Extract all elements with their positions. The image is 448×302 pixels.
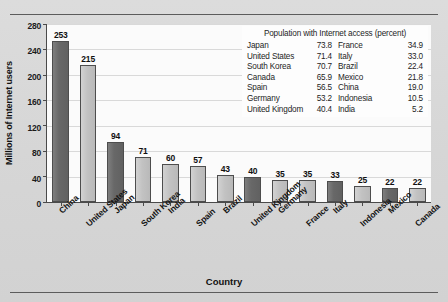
bar-slot: 253 <box>52 24 68 202</box>
y-axis-tick-label: 240 <box>27 46 41 56</box>
inset-table-row: United Kingdom40.4 <box>247 105 332 116</box>
y-axis-tick-label: 80 <box>32 148 41 158</box>
bar-value-label: 253 <box>54 30 68 40</box>
inset-table-percent: 56.5 <box>317 83 332 94</box>
inset-table-country: Indonesia <box>338 94 372 105</box>
inset-table-percent: 10.5 <box>408 94 423 105</box>
inset-table-row: France34.9 <box>338 41 423 52</box>
bar[interactable] <box>190 166 206 202</box>
x-axis-tick-mark <box>362 202 363 206</box>
inset-table-country: United States <box>247 52 294 63</box>
x-axis-tick-mark <box>143 202 144 206</box>
y-axis-tick-label: 40 <box>32 174 41 184</box>
inset-table-percent: 70.7 <box>317 62 332 73</box>
inset-table-row: Brazil22.4 <box>338 62 423 73</box>
bar-value-label: 25 <box>358 175 367 185</box>
bar-value-label: 215 <box>81 54 95 64</box>
inset-table-grid: Japan73.8United States71.4South Korea70.… <box>247 41 423 115</box>
inset-table-country: Germany <box>247 94 280 105</box>
bar-value-label: 22 <box>385 177 394 187</box>
inset-table-percent: 40.4 <box>317 105 332 116</box>
inset-table-country: Canada <box>247 73 275 84</box>
inset-table-country: France <box>338 41 363 52</box>
bar-slot: 71 <box>135 24 151 202</box>
inset-table-percent: 22.4 <box>408 62 423 73</box>
inset-table-country: United Kingdom <box>247 105 303 116</box>
bar-value-label: 40 <box>248 166 257 176</box>
inset-table-country: India <box>338 105 355 116</box>
y-axis-tick: 80 <box>0 142 47 160</box>
bar-value-label: 33 <box>330 170 339 180</box>
inset-table-country: Japan <box>247 41 269 52</box>
bar-slot: 215 <box>80 24 96 202</box>
inset-table-country: Mexico <box>338 73 363 84</box>
inset-table-percent: 21.8 <box>408 73 423 84</box>
bar-slot: 94 <box>107 24 123 202</box>
inset-table-right-column: France34.9Italy33.0Brazil22.4Mexico21.8C… <box>338 41 423 115</box>
y-axis-tick-label: 280 <box>27 21 41 31</box>
bar-value-label: 94 <box>111 131 120 141</box>
y-axis-tick-label: 160 <box>27 97 41 107</box>
bar-slot: 57 <box>190 24 206 202</box>
bar[interactable] <box>354 186 370 202</box>
bar-value-label: 35 <box>303 169 312 179</box>
inset-table-percent: 73.8 <box>317 41 332 52</box>
y-axis-tick: 240 <box>0 40 47 58</box>
inset-table-left-column: Japan73.8United States71.4South Korea70.… <box>247 41 332 115</box>
bar[interactable] <box>244 177 260 202</box>
inset-table-percent: 34.9 <box>408 41 423 52</box>
y-axis-tick: 280 <box>0 15 47 33</box>
inset-table-row: South Korea70.7 <box>247 62 332 73</box>
inset-table-row: Japan73.8 <box>247 41 332 52</box>
x-axis-tick-mark <box>88 202 89 206</box>
inset-table-percent: 19.0 <box>408 83 423 94</box>
top-divider-rule <box>10 14 438 15</box>
inset-table-row: Spain56.5 <box>247 83 332 94</box>
y-axis-tick-label: 0 <box>36 199 41 209</box>
inset-table-country: Spain <box>247 83 267 94</box>
bar-value-label: 35 <box>276 169 285 179</box>
inset-table-row: China19.0 <box>338 83 423 94</box>
bar-slot: 43 <box>217 24 233 202</box>
inset-table-row: India5.2 <box>338 105 423 116</box>
bar-value-label: 43 <box>221 164 230 174</box>
x-axis-tick-mark <box>198 202 199 206</box>
inset-table: Population with Internet access (percent… <box>242 26 428 117</box>
bar-value-label: 22 <box>413 177 422 187</box>
inset-table-row: Italy33.0 <box>338 52 423 63</box>
y-axis-tick: 0 <box>0 193 47 211</box>
figure-container: Millions of Internet users 0408012016020… <box>0 0 448 302</box>
inset-table-percent: 53.2 <box>317 94 332 105</box>
bottom-divider-rule <box>10 292 438 293</box>
x-axis-label: France <box>304 203 331 228</box>
inset-table-percent: 33.0 <box>408 52 423 63</box>
x-axis-label: Spain <box>194 206 217 228</box>
bar-value-label: 57 <box>193 155 202 165</box>
bar-value-label: 71 <box>138 146 147 156</box>
bar[interactable] <box>80 65 96 202</box>
inset-table-country: South Korea <box>247 62 291 73</box>
inset-table-country: Italy <box>338 52 352 63</box>
x-axis-title: Country <box>0 276 448 287</box>
inset-table-percent: 71.4 <box>317 52 332 63</box>
x-axis-tick-mark <box>308 202 309 206</box>
y-axis-tick-label: 200 <box>27 72 41 82</box>
inset-table-country: Brazil <box>338 62 358 73</box>
inset-table-row: Indonesia10.5 <box>338 94 423 105</box>
x-axis-tick-mark <box>417 202 418 206</box>
y-axis-tick: 120 <box>0 117 47 135</box>
inset-table-row: Germany53.2 <box>247 94 332 105</box>
bar[interactable] <box>135 157 151 202</box>
inset-table-percent: 5.2 <box>412 105 423 116</box>
inset-table-title: Population with Internet access (percent… <box>247 29 423 38</box>
inset-table-row: United States71.4 <box>247 52 332 63</box>
inset-table-percent: 65.9 <box>317 73 332 84</box>
inset-table-row: Mexico21.8 <box>338 73 423 84</box>
x-axis-tick-mark <box>253 202 254 206</box>
inset-table-row: Canada65.9 <box>247 73 332 84</box>
y-axis-tick-label: 120 <box>27 123 41 133</box>
y-axis-tick: 200 <box>0 66 47 84</box>
bar-slot: 60 <box>162 24 178 202</box>
y-axis-tick: 40 <box>0 168 47 186</box>
bar[interactable] <box>52 41 68 202</box>
